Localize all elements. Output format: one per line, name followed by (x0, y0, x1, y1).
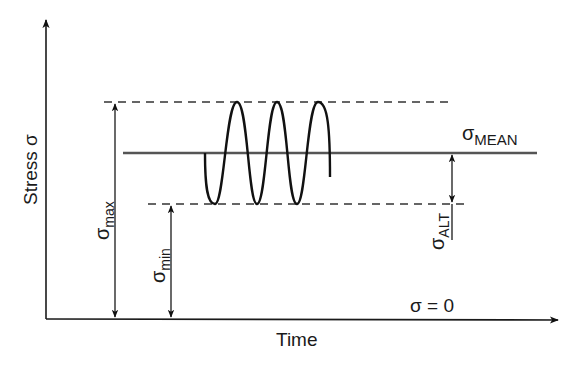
svg-text:Stress σ: Stress σ (20, 134, 41, 205)
x-axis (46, 319, 558, 320)
svg-text:σmin: σmin (147, 248, 173, 283)
x-axis-label: Time (276, 329, 318, 350)
svg-text:σALT: σALT (426, 213, 452, 250)
y-axis-label: Stress σ (20, 134, 41, 205)
mean-stress-label: σMEAN (462, 122, 518, 148)
svg-text:σmax: σmax (91, 201, 117, 240)
zero-stress-label: σ = 0 (410, 295, 454, 316)
stress-cycle-diagram: Stress σ σmax σmin σALT σMEAN σ = 0 Time (0, 0, 578, 368)
max-stress-label: σmax (91, 201, 117, 240)
min-stress-label: σmin (147, 248, 173, 283)
alt-stress-label: σALT (426, 213, 452, 250)
